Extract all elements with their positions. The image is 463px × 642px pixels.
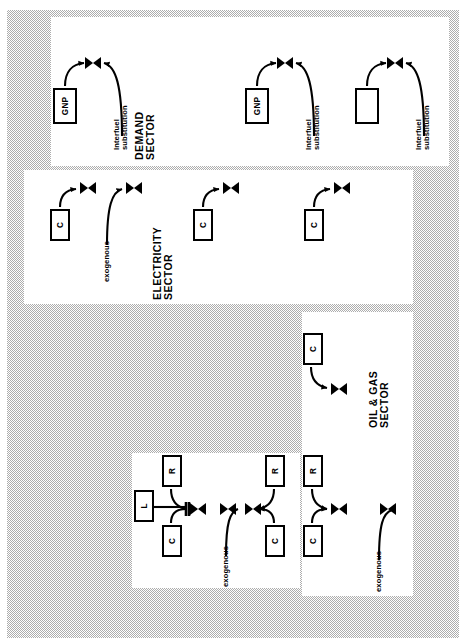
box-label: C [271,538,280,544]
box-resource-l-1[interactable]: L [134,490,154,522]
box-electricity-c-1[interactable]: C [50,209,70,241]
box-resource-r-1[interactable]: R [162,455,182,487]
flow-label-interfuel-2: Interfuel substitution [305,105,321,150]
box-label: R [271,468,280,474]
box-resource-c-2[interactable]: C [265,525,285,557]
box-label: R [309,468,318,474]
box-oilgas-r-2[interactable]: R [303,455,323,487]
box-label: C [309,346,318,352]
box-oilgas-c-2[interactable]: C [303,525,323,557]
box-electricity-c-3[interactable]: C [304,209,324,241]
box-demand-gnp-1[interactable]: GNP [53,88,77,124]
panel-title-demand: DEMAND SECTOR [134,112,157,160]
box-label: C [310,222,319,228]
panel-title-electricity: ELECTRICITY SECTOR [152,227,175,300]
box-electricity-c-2[interactable]: C [193,209,213,241]
panel-title-oilgas: OIL & GAS SECTOR [368,371,391,428]
flow-label-interfuel-3: Interfuel substitution [415,105,431,150]
box-label: C [309,538,318,544]
panel-electricity-sector [24,170,413,304]
diagram-page: GNP GNP C C C C R L C R C R C DEMAND SEC… [0,0,463,642]
box-label: C [56,222,65,228]
flow-label-interfuel-1: Interfuel substitution [113,105,129,150]
box-oilgas-c-1[interactable]: C [303,333,323,365]
box-label: GNP [61,97,70,115]
box-resource-c-1[interactable]: C [162,525,182,557]
flow-label-exogenous-oilgas: exogenous [375,551,383,592]
box-label: C [199,222,208,228]
box-demand-blank[interactable] [355,88,379,124]
flow-label-exogenous-electricity: exogenous [103,241,111,282]
box-resource-r-2[interactable]: R [265,455,285,487]
flow-label-exogenous-resource: exogenous [222,546,230,587]
box-label: L [140,503,149,508]
box-demand-gnp-2[interactable]: GNP [245,88,269,124]
box-label: R [168,468,177,474]
box-label: GNP [253,97,262,115]
box-label: C [168,538,177,544]
